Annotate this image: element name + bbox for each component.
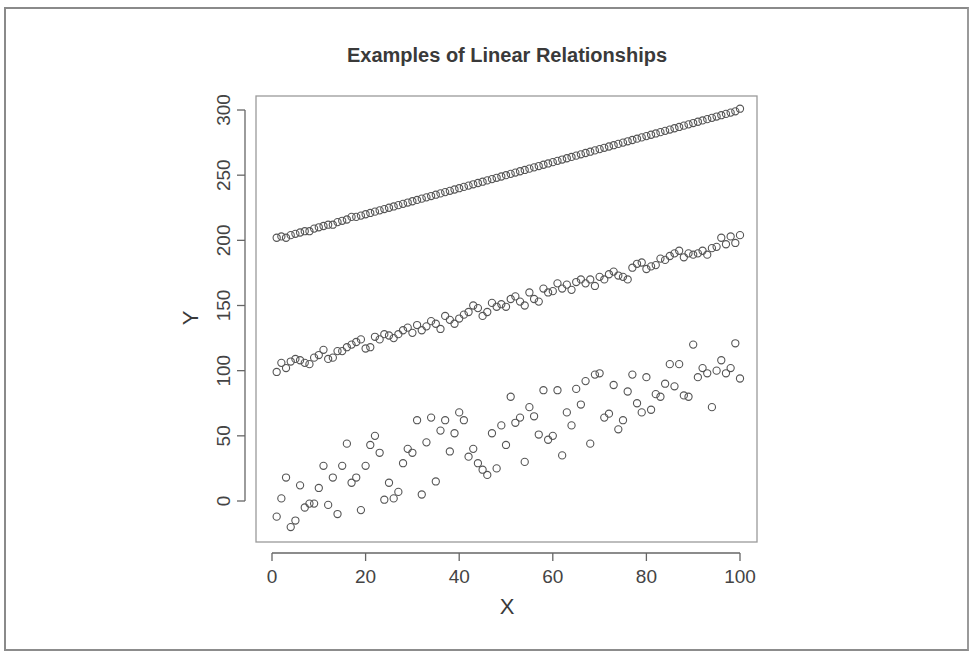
data-point xyxy=(690,341,697,348)
data-point xyxy=(521,458,528,465)
data-point xyxy=(587,276,594,283)
data-point xyxy=(718,357,725,364)
data-point xyxy=(643,374,650,381)
data-point xyxy=(629,371,636,378)
data-point xyxy=(530,164,537,171)
data-point xyxy=(638,259,645,266)
data-point xyxy=(704,370,711,377)
data-point xyxy=(657,255,664,262)
data-point xyxy=(540,285,547,292)
data-point xyxy=(573,152,580,159)
data-point xyxy=(652,262,659,269)
data-point xyxy=(526,289,533,296)
data-point xyxy=(409,449,416,456)
data-point xyxy=(559,156,566,163)
data-point xyxy=(484,308,491,315)
data-point xyxy=(339,217,346,224)
x-tick-label: 60 xyxy=(542,566,563,587)
data-point xyxy=(273,513,280,520)
plot-box xyxy=(256,96,757,542)
data-point xyxy=(432,478,439,485)
data-point xyxy=(432,191,439,198)
data-point xyxy=(292,230,299,237)
data-point xyxy=(442,189,449,196)
data-point xyxy=(666,126,673,133)
data-point xyxy=(409,329,416,336)
data-point xyxy=(413,196,420,203)
data-point xyxy=(315,484,322,491)
data-point xyxy=(530,413,537,420)
data-point xyxy=(615,140,622,147)
data-point xyxy=(736,232,743,239)
data-point xyxy=(362,211,369,218)
data-point xyxy=(385,479,392,486)
data-point xyxy=(549,432,556,439)
data-point xyxy=(479,178,486,185)
data-point xyxy=(498,422,505,429)
data-point xyxy=(680,392,687,399)
data-point xyxy=(437,427,444,434)
data-point xyxy=(353,213,360,220)
y-tick-label: 150 xyxy=(213,290,234,322)
data-point xyxy=(596,146,603,153)
data-point xyxy=(554,387,561,394)
data-point xyxy=(376,207,383,214)
data-point xyxy=(521,302,528,309)
data-point xyxy=(367,344,374,351)
data-point xyxy=(465,182,472,189)
data-point xyxy=(339,348,346,355)
data-point xyxy=(404,199,411,206)
data-point xyxy=(685,250,692,257)
data-point xyxy=(357,507,364,514)
y-tick-label: 200 xyxy=(213,224,234,256)
y-tick-label: 300 xyxy=(213,94,234,126)
data-point xyxy=(282,364,289,371)
data-point xyxy=(507,393,514,400)
data-point xyxy=(685,121,692,128)
x-tick-label: 40 xyxy=(449,566,470,587)
data-point xyxy=(582,280,589,287)
data-point xyxy=(601,144,608,151)
data-point xyxy=(666,361,673,368)
data-point xyxy=(545,436,552,443)
data-point xyxy=(619,417,626,424)
data-point xyxy=(736,375,743,382)
data-point xyxy=(708,404,715,411)
data-point xyxy=(470,181,477,188)
data-point xyxy=(474,460,481,467)
x-axis-ticks: 020406080100 xyxy=(267,553,756,587)
data-point xyxy=(296,482,303,489)
data-point xyxy=(577,401,584,408)
data-point xyxy=(545,160,552,167)
data-point xyxy=(619,139,626,146)
data-point xyxy=(685,393,692,400)
data-point xyxy=(591,282,598,289)
data-point xyxy=(460,183,467,190)
y-axis-ticks: 050100150200250300 xyxy=(213,94,245,506)
data-point xyxy=(704,251,711,258)
data-point xyxy=(395,202,402,209)
x-tick-label: 0 xyxy=(267,566,278,587)
data-point xyxy=(484,471,491,478)
data-point xyxy=(690,251,697,258)
data-point xyxy=(488,430,495,437)
data-point xyxy=(437,190,444,197)
data-point xyxy=(292,517,299,524)
data-point xyxy=(367,441,374,448)
data-point xyxy=(474,179,481,186)
data-point xyxy=(601,414,608,421)
data-point xyxy=(479,312,486,319)
data-point xyxy=(418,327,425,334)
data-point xyxy=(362,345,369,352)
data-point xyxy=(381,496,388,503)
data-point xyxy=(535,162,542,169)
data-point xyxy=(320,346,327,353)
data-point xyxy=(282,474,289,481)
y-axis-label: Y xyxy=(178,310,203,325)
data-point xyxy=(727,364,734,371)
data-point xyxy=(662,380,669,387)
data-point xyxy=(320,222,327,229)
data-point xyxy=(708,114,715,121)
data-point xyxy=(493,465,500,472)
data-point xyxy=(460,417,467,424)
